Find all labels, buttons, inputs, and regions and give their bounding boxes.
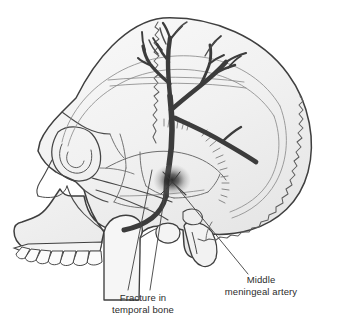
artery-anterior-division	[168, 38, 170, 96]
artery-label-line2: meningeal artery	[196, 286, 326, 298]
mandible-group	[104, 215, 180, 300]
artery-label-line1: Middle	[247, 274, 276, 285]
tooth	[87, 251, 102, 265]
artery-label: Middle meningeal artery	[196, 274, 326, 297]
skull-illustration-figure: Fracture in temporal bone Middle meninge…	[0, 0, 338, 330]
fracture-blur-spot	[153, 164, 191, 196]
nasal-bone-line	[37, 160, 52, 196]
fracture-site-group	[153, 164, 191, 196]
fracture-label-line1: Fracture in	[120, 292, 167, 303]
external-acoustic-meatus	[183, 209, 202, 225]
fracture-label-line2: temporal bone	[68, 304, 218, 316]
